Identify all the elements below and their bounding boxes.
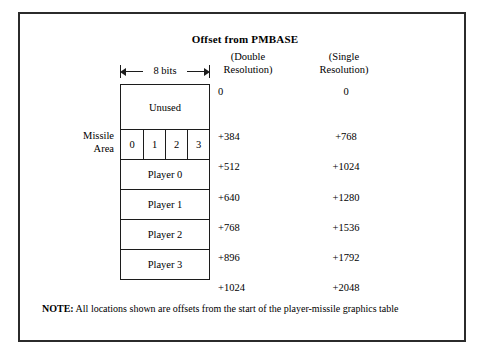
figure-note: NOTE: All locations shown are offsets fr…: [42, 302, 398, 315]
offset-from-pmbase-title: Offset from PMBASE: [130, 33, 360, 45]
offset-single-2: +1024: [316, 161, 376, 172]
offset-single-3: +1280: [316, 192, 376, 203]
offset-single-1: +768: [316, 131, 376, 142]
column-header-double-line1: (Double: [202, 50, 294, 63]
column-header-single-resolution: (Single Resolution): [298, 50, 390, 76]
missile-area-label-line2: Area: [48, 143, 114, 156]
note-text: All locations shown are offsets from the…: [74, 303, 399, 314]
figure-frame: Offset from PMBASE (Double Resolution) (…: [18, 12, 466, 342]
offset-double-1: +384: [218, 131, 240, 142]
missile-cell-3: 3: [187, 130, 209, 159]
width-dimension-label: 8 bits: [143, 63, 187, 79]
arrow-right-icon: [204, 68, 210, 76]
offset-double-4: +768: [218, 222, 240, 233]
arrow-left-icon: [120, 68, 126, 76]
offset-single-6: +2048: [316, 282, 376, 293]
memory-block-player-2: Player 2: [121, 219, 209, 249]
missile-area-label-line1: Missile: [48, 130, 114, 143]
missile-area-label: Missile Area: [48, 130, 114, 155]
note-label: NOTE:: [42, 303, 74, 314]
column-header-double-resolution: (Double Resolution): [202, 50, 294, 76]
column-header-single-line1: (Single: [298, 50, 390, 63]
missile-cell-1: 1: [143, 130, 165, 159]
memory-block-unused: Unused: [121, 85, 209, 129]
missile-cell-2: 2: [165, 130, 187, 159]
offset-single-0: 0: [316, 86, 376, 97]
offset-double-0: 0: [218, 86, 223, 97]
memory-block-player-0: Player 0: [121, 159, 209, 189]
column-header-single-line2: Resolution): [298, 63, 390, 76]
column-header-double-line2: Resolution): [202, 63, 294, 76]
offset-double-6: +1024: [218, 282, 245, 293]
offset-double-3: +640: [218, 192, 240, 203]
memory-block-missile-area: 0 1 2 3: [121, 129, 209, 159]
pm-graphics-memory-map-figure: Offset from PMBASE (Double Resolution) (…: [20, 14, 468, 344]
offset-double-2: +512: [218, 161, 240, 172]
memory-map-blocks: Unused 0 1 2 3 Player 0 Player 1 Player …: [120, 84, 210, 280]
offset-single-5: +1792: [316, 252, 376, 263]
width-dimension-indicator: 8 bits: [120, 62, 210, 80]
memory-block-player-3: Player 3: [121, 249, 209, 279]
offset-double-5: +896: [218, 252, 240, 263]
offset-single-4: +1536: [316, 222, 376, 233]
missile-cell-0: 0: [121, 130, 143, 159]
memory-block-player-1: Player 1: [121, 189, 209, 219]
